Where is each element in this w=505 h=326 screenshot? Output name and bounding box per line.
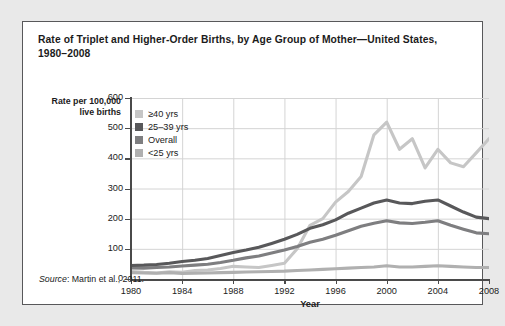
y-tick-mark [125, 279, 130, 280]
y-tick-label: 600 [93, 92, 123, 102]
figure-card: Rate of Triplet and Higher-Order Births,… [22, 21, 483, 305]
y-tick-label: 300 [93, 183, 123, 193]
legend-item: <25 yrs [135, 147, 188, 160]
x-tick-label: 1980 [109, 286, 153, 296]
y-tick-label: 200 [93, 213, 123, 223]
y-tick-label: 500 [93, 122, 123, 132]
x-tick-mark [233, 280, 234, 284]
source-text: : Martin et al., 2011. [67, 274, 144, 284]
y-tick-mark [125, 98, 130, 99]
y-tick-mark [125, 158, 130, 159]
legend-label: <25 yrs [148, 148, 178, 158]
legend-item: ≥40 yrs [135, 107, 188, 120]
legend-swatch-0-icon [135, 110, 143, 118]
y-tick-mark [125, 219, 130, 220]
x-tick-label: 1996 [314, 286, 358, 296]
x-tick-mark [489, 280, 490, 284]
x-tick-mark [284, 280, 285, 284]
y-tick-mark [125, 128, 130, 129]
chart-legend: ≥40 yrs25–39 yrsOverall<25 yrs [135, 107, 188, 160]
y-tick-label: 400 [93, 152, 123, 162]
x-tick-label: 1984 [160, 286, 204, 296]
legend-item: Overall [135, 133, 188, 146]
x-tick-label: 2004 [416, 286, 460, 296]
x-axis-title: Year [131, 299, 489, 309]
source-label: Source [39, 274, 67, 284]
legend-swatch-2-icon [135, 136, 143, 144]
legend-swatch-3-icon [135, 149, 143, 157]
legend-label: 25–39 yrs [148, 122, 188, 132]
x-tick-mark [387, 280, 388, 284]
y-tick-mark [125, 249, 130, 250]
y-tick-mark [125, 189, 130, 190]
y-axis-line [130, 97, 132, 280]
x-tick-label: 1992 [262, 286, 306, 296]
x-axis-line [130, 279, 490, 281]
y-tick-label: 100 [93, 243, 123, 253]
x-tick-label: 1988 [211, 286, 255, 296]
x-tick-label: 2008 [467, 286, 505, 296]
legend-item: 25–39 yrs [135, 120, 188, 133]
legend-label: Overall [148, 135, 177, 145]
x-tick-mark [182, 280, 183, 284]
legend-swatch-1-icon [135, 123, 143, 131]
legend-label: ≥40 yrs [148, 109, 178, 119]
x-tick-label: 2000 [365, 286, 409, 296]
x-tick-mark [336, 280, 337, 284]
x-tick-mark [438, 280, 439, 284]
